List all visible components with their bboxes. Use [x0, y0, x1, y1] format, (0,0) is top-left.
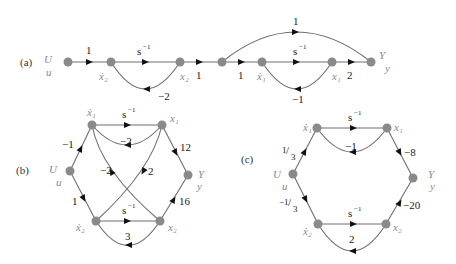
c-label-u: u	[282, 180, 288, 192]
b-weight-int1: s	[122, 108, 126, 120]
c-weight-x1-y: −8	[404, 146, 416, 158]
a-label-y: y	[384, 62, 390, 74]
c-weight-int2-exp: −1	[354, 205, 362, 213]
arrow-icon	[293, 59, 300, 65]
b-weight-fb2: 3	[125, 230, 131, 242]
b-weight-u-x2dot: 1	[72, 195, 78, 207]
c-node-x2	[382, 220, 391, 229]
a-weight-x2-mid: 1	[196, 69, 202, 81]
b-weight-int2-exp: −1	[128, 202, 136, 210]
c-label-U: U	[273, 168, 282, 180]
arrow-icon	[124, 218, 131, 224]
a-weight-int1: s	[293, 45, 297, 57]
arrow-icon	[86, 59, 93, 65]
b-label-x2: x₂	[167, 221, 177, 233]
b-weight-u-x1dot: −1	[62, 138, 74, 150]
arrow-icon	[302, 195, 311, 204]
a-node-U	[64, 58, 73, 67]
a-node-x1	[328, 58, 337, 67]
a-label-x1dot: ẋ₁	[256, 70, 266, 82]
b-node-x2dot	[92, 217, 101, 226]
b-label-x1: x₁	[169, 112, 179, 124]
a-weight-x1-y: 2	[347, 69, 353, 81]
graph-a-tag: (a)	[20, 56, 33, 69]
a-weight-mid-y: 1	[293, 15, 299, 27]
a-label-x2dot: ẋ₂	[98, 70, 108, 82]
graph-b: (b) ẋ₁ x₁ U u Y y ẋ₂	[16, 106, 206, 248]
b-label-Y: Y	[198, 168, 206, 180]
signal-flow-graphs: (a) U u ẋ₂ x₂ ẋ₁ x₁ Y y 1 s −1	[0, 0, 456, 264]
c-node-x1dot	[313, 124, 322, 133]
c-node-x1	[383, 124, 392, 133]
arrow-icon	[142, 59, 149, 65]
c-weight-fb2: 2	[349, 233, 355, 245]
c-weight-int1: s	[348, 111, 352, 123]
b-weight-x2-x1dot: −2	[100, 164, 112, 176]
b-weight-int1-exp: −1	[128, 106, 136, 114]
graph-c: (c) ẋ₁ x₁ U u Y y ẋ₂ x₂ 1	[241, 109, 436, 254]
arrow-icon	[79, 194, 88, 203]
b-node-x1	[158, 121, 167, 130]
c-weight-int2: s	[348, 207, 352, 219]
b-weight-int2: s	[122, 204, 126, 216]
c-weight-u-x1dot-den: 3	[291, 152, 296, 162]
fraction-slash: /	[288, 196, 292, 208]
c-label-Y: Y	[428, 168, 436, 180]
c-weight-fb1: −1	[345, 140, 357, 152]
a-weight-u-x2dot: 1	[86, 44, 92, 56]
c-node-Y	[409, 174, 418, 183]
a-label-U: U	[44, 53, 53, 65]
arrow-icon	[292, 29, 299, 35]
c-label-x2: x₂	[392, 221, 402, 233]
a-weight-int2-exp: −1	[143, 43, 151, 51]
c-weight-int1-exp: −1	[354, 109, 362, 117]
a-feedback-arc-1	[262, 62, 332, 89]
b-node-Y	[184, 171, 193, 180]
c-node-U	[289, 170, 298, 179]
a-label-x1: x₁	[331, 70, 341, 82]
graph-b-tag: (b)	[16, 164, 29, 177]
graph-c-tag: (c)	[241, 153, 254, 166]
a-node-x2dot	[107, 58, 116, 67]
c-label-x1dot: ẋ₁	[302, 121, 312, 133]
a-weight-int1-exp: −1	[299, 43, 307, 51]
c-label-y: y	[429, 180, 435, 192]
b-weight-fb1: −2	[120, 135, 132, 147]
b-label-x2dot: ẋ₂	[75, 221, 85, 233]
b-weight-x1-x2dot: 2	[148, 165, 154, 177]
a-node-Y	[367, 58, 376, 67]
arrow-icon	[300, 147, 309, 156]
b-node-U	[66, 167, 75, 176]
b-label-y: y	[196, 180, 202, 192]
fraction-slash: /	[286, 144, 290, 156]
arrow-icon	[238, 59, 245, 65]
arrow-icon	[143, 86, 150, 92]
arrow-icon	[348, 59, 355, 65]
b-label-U: U	[49, 163, 58, 175]
a-weight-fb2: −2	[158, 90, 170, 102]
arrow-icon	[124, 122, 131, 128]
a-label-x2: x₂	[179, 70, 189, 82]
a-label-u: u	[46, 66, 52, 78]
c-weight-x2-y: −20	[403, 199, 421, 211]
a-node-x1dot	[258, 58, 267, 67]
a-label-Y: Y	[379, 49, 387, 61]
b-label-u: u	[56, 176, 62, 188]
c-label-x1: x₁	[393, 121, 403, 133]
b-weight-x1-y: 12	[180, 141, 191, 153]
c-node-x2dot	[314, 220, 323, 229]
b-node-x2	[156, 217, 165, 226]
arrow-icon	[294, 86, 301, 92]
arrow-icon	[125, 242, 132, 248]
graph-a: (a) U u ẋ₂ x₂ ẋ₁ x₁ Y y 1 s −1	[20, 15, 390, 105]
b-node-x1dot	[88, 121, 97, 130]
a-weight-fb1: −1	[292, 93, 304, 105]
a-weight-int2: s	[137, 45, 141, 57]
a-node-x2	[176, 58, 185, 67]
b-label-x1dot: ẋ₁	[86, 106, 96, 118]
arrow-icon	[395, 148, 404, 157]
arrow-icon	[349, 248, 356, 254]
arrow-icon	[171, 148, 180, 157]
c-weight-u-x2dot-den: 3	[293, 204, 298, 214]
arrow-icon	[196, 59, 203, 65]
